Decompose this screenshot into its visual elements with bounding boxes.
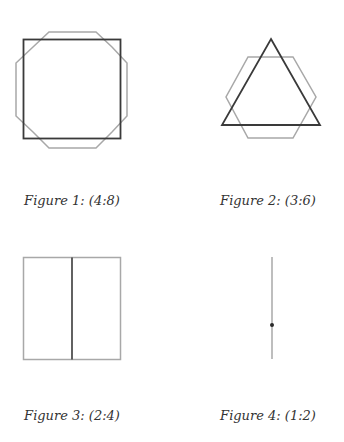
triangle-shape [222, 39, 320, 125]
point-marker [270, 323, 274, 327]
octagon-shape [16, 32, 127, 148]
figure-2-diagram [222, 39, 320, 138]
figure-3-caption: Figure 3: (2:4) [24, 408, 120, 423]
figure-3-diagram [24, 258, 121, 360]
figure-1-caption: Figure 1: (4:8) [24, 193, 120, 208]
figure-4-diagram [270, 257, 274, 359]
figure-1-diagram [16, 32, 127, 148]
figures-canvas [0, 0, 344, 442]
figure-2-caption: Figure 2: (3:6) [220, 193, 316, 208]
square-shape [24, 40, 121, 139]
figure-4-caption: Figure 4: (1:2) [220, 408, 316, 423]
